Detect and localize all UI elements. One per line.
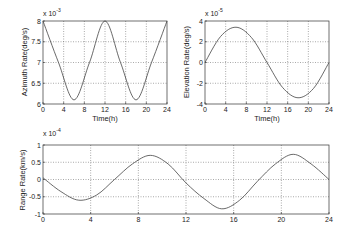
y-tick-label: -1 xyxy=(35,211,41,218)
x-tick-label: 4 xyxy=(89,216,93,223)
x-tick-label: 12 xyxy=(263,106,271,113)
azimuth-multiplier: x 10-3 xyxy=(43,7,61,17)
x-tick-label: 24 xyxy=(325,216,333,223)
x-tick-label: 20 xyxy=(304,106,312,113)
x-tick-label: 8 xyxy=(82,106,86,113)
x-tick-label: 4 xyxy=(62,106,66,113)
x-tick-label: 0 xyxy=(41,216,45,223)
x-tick-label: 8 xyxy=(244,106,248,113)
azimuth-rate-plot: 0481216202466.577.58 xyxy=(31,18,171,114)
y-tick-label: 0 xyxy=(199,59,203,66)
x-tick-label: 24 xyxy=(163,106,171,113)
y-tick-label: 4 xyxy=(199,18,203,25)
y-tick-label: -2 xyxy=(197,80,203,87)
x-tick-label: 0 xyxy=(41,106,45,113)
x-tick-label: 4 xyxy=(224,106,228,113)
y-tick-label: 0.5 xyxy=(31,159,41,166)
x-tick-label: 0 xyxy=(203,106,207,113)
x-tick-label: 24 xyxy=(325,106,333,113)
x-tick-label: 20 xyxy=(142,106,150,113)
range-ylabel: Range Rate(km/s) xyxy=(18,149,27,210)
y-tick-label: 1 xyxy=(37,142,41,149)
elevation-rate-plot: 04812162024-4-2024 xyxy=(197,18,333,114)
azimuth-xlabel: Time(h) xyxy=(92,114,118,123)
y-tick-label: -0.5 xyxy=(29,193,41,200)
x-tick-label: 20 xyxy=(277,216,285,223)
y-tick-label: -4 xyxy=(197,101,203,108)
y-tick-label: 6 xyxy=(37,101,41,108)
x-tick-label: 8 xyxy=(136,216,140,223)
azimuth-ylabel: Azimuth Rate(deg/s) xyxy=(20,27,29,96)
y-tick-label: 7 xyxy=(37,59,41,66)
x-tick-label: 12 xyxy=(101,106,109,113)
figure: 0481216202466.577.58 04812162024-4-2024 … xyxy=(0,0,349,234)
range-multiplier: x 10-4 xyxy=(43,127,61,137)
y-tick-label: 0 xyxy=(37,176,41,183)
series-line xyxy=(43,21,167,100)
x-tick-label: 16 xyxy=(230,216,238,223)
x-tick-label: 16 xyxy=(284,106,292,113)
y-tick-label: 2 xyxy=(199,38,203,45)
elevation-ylabel: Elevation Rate(deg/s) xyxy=(182,25,191,98)
y-tick-label: 7.5 xyxy=(31,38,41,45)
x-tick-label: 12 xyxy=(182,216,190,223)
elevation-multiplier: x 10-5 xyxy=(205,7,223,17)
y-tick-label: 8 xyxy=(37,18,41,25)
range-rate-plot: 04812162024-1-0.500.51 xyxy=(29,142,333,224)
y-tick-label: 6.5 xyxy=(31,80,41,87)
elevation-xlabel: Time(h) xyxy=(254,114,280,123)
x-tick-label: 16 xyxy=(122,106,130,113)
